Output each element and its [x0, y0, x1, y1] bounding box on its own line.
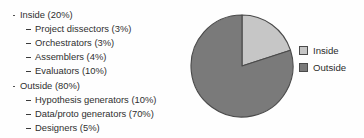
legend-item-outside: Outside [299, 59, 346, 76]
bullet-icon [13, 86, 15, 88]
taxonomy-list: Inside (20%) Project dissectors (3%) Orc… [0, 0, 186, 138]
list-item: Data/proto generators (70%) [13, 107, 156, 121]
figure-root: Inside (20%) Project dissectors (3%) Orc… [0, 0, 364, 138]
dash-icon [26, 57, 31, 58]
dash-icon [26, 100, 31, 101]
legend-label: Inside [313, 45, 339, 56]
pie-svg [186, 10, 298, 122]
group-heading-inside: Inside (20%) [13, 8, 131, 22]
bullet-icon [13, 15, 15, 17]
list-item-label: Project dissectors (3%) [35, 23, 131, 34]
group-heading-outside: Outside (80%) [13, 79, 156, 93]
list-item-label: Evaluators (10%) [35, 65, 107, 76]
list-item: Hypothesis generators (10%) [13, 93, 156, 107]
group-label: Outside (80%) [20, 80, 80, 91]
legend-swatch-icon [299, 46, 308, 55]
legend: Inside Outside [299, 42, 346, 76]
list-item: Assemblers (4%) [13, 50, 131, 64]
dash-icon [26, 128, 31, 129]
dash-icon [26, 29, 31, 30]
list-item: Designers (5%) [13, 121, 156, 135]
legend-swatch-icon [299, 63, 308, 72]
legend-label: Outside [313, 62, 346, 73]
list-item: Evaluators (10%) [13, 64, 131, 78]
taxonomy-group-outside: Outside (80%) Hypothesis generators (10%… [13, 79, 156, 135]
taxonomy-group-inside: Inside (20%) Project dissectors (3%) Orc… [13, 8, 131, 78]
list-item-label: Assemblers (4%) [35, 51, 106, 62]
dash-icon [26, 71, 31, 72]
group-label: Inside (20%) [20, 9, 73, 20]
dash-icon [26, 114, 31, 115]
list-item-label: Orchestrators (3%) [35, 37, 114, 48]
pie-chart: Inside Outside [186, 0, 364, 138]
list-item: Project dissectors (3%) [13, 22, 131, 36]
dash-icon [26, 43, 31, 44]
list-item: Orchestrators (3%) [13, 36, 131, 50]
list-item-label: Data/proto generators (70%) [35, 108, 154, 119]
legend-item-inside: Inside [299, 42, 346, 59]
list-item-label: Hypothesis generators (10%) [35, 94, 156, 105]
list-item-label: Designers (5%) [35, 122, 100, 133]
